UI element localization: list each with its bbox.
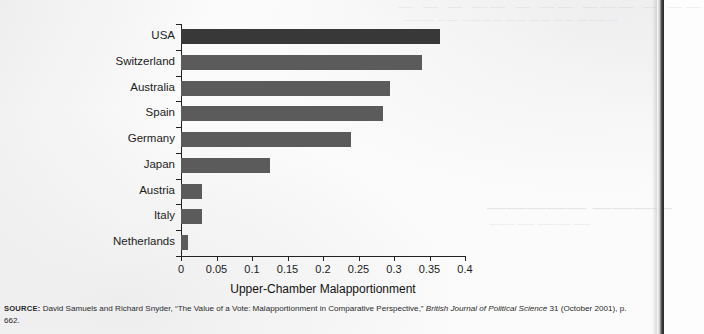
x-axis-tick-label: 0.35 <box>419 263 440 275</box>
bar-row: USA <box>181 24 465 50</box>
bar-row: Austria <box>181 179 465 205</box>
bar-row: Spain <box>181 101 465 127</box>
bar-row: Japan <box>181 153 465 179</box>
x-axis-tick <box>359 256 360 261</box>
y-axis-tick <box>176 127 181 128</box>
x-axis-tick-label: 0.1 <box>244 263 259 275</box>
bar-usa <box>181 29 440 44</box>
y-axis-tick <box>176 230 181 231</box>
x-axis-tick <box>465 256 466 261</box>
y-axis-label-austria: Austria <box>105 184 175 196</box>
y-axis-label-switzerland: Switzerland <box>105 55 175 67</box>
x-axis-tick-label: 0.3 <box>386 263 401 275</box>
bar-row: Germany <box>181 127 465 153</box>
y-axis-tick <box>176 256 181 257</box>
x-axis-tick <box>181 256 182 261</box>
bar-row: Australia <box>181 76 465 102</box>
x-axis-tick-label: 0.4 <box>457 263 472 275</box>
source-note: SOURCE: David Samuels and Richard Snyder… <box>4 303 644 326</box>
x-axis-tick <box>323 256 324 261</box>
y-axis-label-usa: USA <box>105 29 175 41</box>
x-axis-tick <box>288 256 289 261</box>
x-axis-tick <box>217 256 218 261</box>
x-axis-tick-label: 0.05 <box>206 263 227 275</box>
x-axis-line: 00.050.10.150.20.250.30.350.4 <box>181 256 466 257</box>
x-axis-tick <box>252 256 253 261</box>
bar-row: Italy <box>181 204 465 230</box>
x-axis-tick <box>394 256 395 261</box>
y-axis-tick <box>176 179 181 180</box>
source-label: SOURCE: <box>4 304 40 313</box>
x-axis-tick-label: 0 <box>178 263 184 275</box>
y-axis-label-italy: Italy <box>105 209 175 221</box>
bar-chart: 00.050.10.150.20.250.30.350.4 USASwitzer… <box>0 0 664 280</box>
y-axis-tick <box>176 101 181 102</box>
x-axis-title: Upper-Chamber Malapportionment <box>181 282 465 296</box>
bar-switzerland <box>181 55 422 70</box>
source-journal-name: British Journal of Political Science <box>426 304 547 313</box>
x-axis-tick <box>430 256 431 261</box>
bar-row: Switzerland <box>181 50 465 76</box>
y-axis-label-australia: Australia <box>105 81 175 93</box>
bar-spain <box>181 106 383 121</box>
bar-austria <box>181 184 202 199</box>
y-axis-tick <box>176 76 181 77</box>
x-axis-tick-label: 0.25 <box>348 263 369 275</box>
scan-binding-edge <box>657 0 664 334</box>
x-axis-tick-label: 0.15 <box>277 263 298 275</box>
y-axis-label-netherlands: Netherlands <box>105 235 175 247</box>
source-text-before: David Samuels and Richard Snyder, “The V… <box>40 304 425 313</box>
bar-italy <box>181 209 202 224</box>
y-axis-label-germany: Germany <box>105 132 175 144</box>
y-axis-tick <box>176 50 181 51</box>
y-axis-label-spain: Spain <box>105 106 175 118</box>
bar-japan <box>181 158 270 173</box>
y-axis-tick <box>176 204 181 205</box>
bar-germany <box>181 132 351 147</box>
plot-area: USASwitzerlandAustraliaSpainGermanyJapan… <box>181 24 465 256</box>
y-axis-tick <box>176 153 181 154</box>
y-axis-label-japan: Japan <box>105 158 175 170</box>
bar-australia <box>181 81 390 96</box>
bar-netherlands <box>181 235 188 250</box>
y-axis-tick <box>176 24 181 25</box>
x-axis-tick-label: 0.2 <box>315 263 330 275</box>
bar-row: Netherlands <box>181 230 465 256</box>
